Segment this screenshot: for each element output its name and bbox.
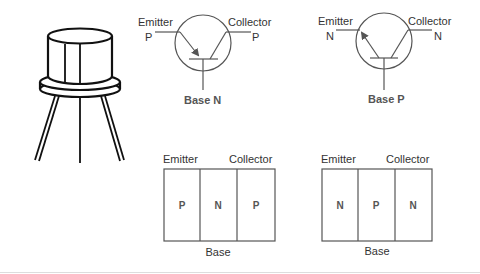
- pnp-block-emitter-label: Emitter: [163, 153, 198, 165]
- npn-base-label: Base P: [368, 93, 405, 105]
- npn-symbol: Emitter N Collector N Base P: [318, 13, 452, 105]
- npn-emitter-arrow-icon: [362, 33, 379, 58]
- npn-block-base-label: Base: [364, 245, 389, 257]
- pnp-block: Emitter Collector P N P Base: [163, 153, 275, 258]
- npn-block-emitter-label: Emitter: [321, 153, 356, 165]
- pnp-symbol: Emitter P Collector P Base N: [138, 15, 272, 106]
- npn-emitter-type: N: [326, 30, 334, 42]
- npn-collector-label: Collector: [408, 15, 452, 27]
- npn-block-collector-label: Collector: [386, 153, 430, 165]
- npn-collector-type: N: [434, 30, 442, 42]
- pnp-collector-label: Collector: [228, 16, 272, 28]
- pnp-region-2: N: [214, 200, 221, 211]
- pnp-emitter-label: Emitter: [138, 16, 173, 28]
- pnp-block-base-label: Base: [205, 246, 230, 258]
- npn-emitter-label: Emitter: [318, 15, 353, 27]
- pnp-base-label: Base N: [184, 94, 221, 106]
- npn-region-3: N: [409, 200, 416, 211]
- npn-block: Emitter Collector N P N Base: [321, 153, 432, 257]
- transistor-diagram: Emitter P Collector P Base N Emitter N C…: [0, 0, 480, 274]
- transistor-package-icon: [35, 29, 124, 164]
- pnp-emitter-arrow-icon: [180, 32, 198, 55]
- npn-region-1: N: [336, 200, 343, 211]
- pnp-collector-type: P: [252, 31, 259, 43]
- pnp-region-3: P: [253, 200, 260, 211]
- pnp-block-collector-label: Collector: [229, 153, 273, 165]
- pnp-region-1: P: [179, 200, 186, 211]
- npn-region-2: P: [373, 200, 380, 211]
- pnp-emitter-type: P: [145, 31, 152, 43]
